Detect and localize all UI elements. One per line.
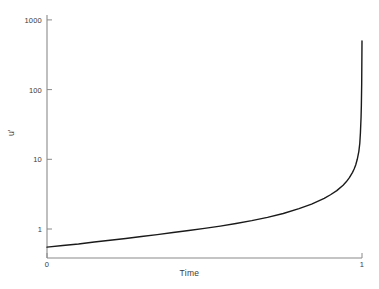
- x-axis-ticks: [47, 253, 362, 258]
- y-axis-ticks: [47, 20, 52, 229]
- axis-lines: [47, 15, 362, 258]
- y-tick-label: 1: [38, 225, 42, 234]
- data-series-group: [47, 41, 362, 247]
- x-axis-label: Time: [0, 268, 379, 278]
- y-tick-label: 1000: [25, 15, 43, 24]
- chart-figure: 1101001000 01 u' Time: [0, 0, 379, 289]
- plot-canvas: [0, 0, 379, 289]
- y-axis-label: u': [6, 130, 16, 136]
- y-tick-label: 100: [29, 85, 42, 94]
- series-line: [47, 41, 362, 247]
- y-tick-label: 10: [33, 155, 42, 164]
